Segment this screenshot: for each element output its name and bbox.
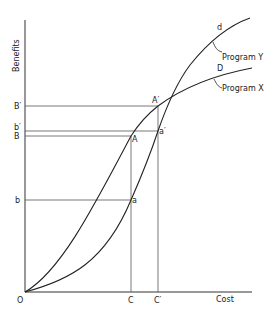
leader-program-x bbox=[214, 79, 222, 88]
leader-program-y bbox=[213, 42, 222, 52]
curve-program-y bbox=[25, 18, 250, 292]
label-point-a-prime: a′ bbox=[159, 127, 166, 136]
label-C: C bbox=[128, 296, 134, 305]
label-point-A: A bbox=[132, 135, 138, 144]
axes bbox=[25, 20, 252, 292]
label-B: B bbox=[14, 132, 20, 141]
label-b-prime: b′ bbox=[14, 123, 21, 132]
origin-label: O bbox=[17, 296, 23, 305]
guide-lines bbox=[25, 106, 158, 292]
label-C-prime: C′ bbox=[154, 296, 162, 305]
label-program-y: Program Y bbox=[222, 53, 263, 62]
label-B-prime: B′ bbox=[14, 102, 21, 111]
label-b: b bbox=[15, 196, 20, 205]
label-curve-D: D bbox=[217, 64, 223, 73]
y-axis-label: Benefits bbox=[12, 39, 21, 72]
label-program-x: Program X bbox=[222, 84, 264, 93]
cost-benefit-diagram: Benefits Cost O B′ b′ B b C C′ A A′ a a′… bbox=[0, 0, 275, 315]
label-point-a: a bbox=[132, 196, 137, 205]
label-curve-d: d bbox=[217, 23, 222, 32]
label-point-A-prime: A′ bbox=[152, 96, 159, 105]
x-axis-label: Cost bbox=[216, 295, 234, 304]
curve-program-x bbox=[25, 68, 252, 292]
curves bbox=[25, 18, 252, 292]
